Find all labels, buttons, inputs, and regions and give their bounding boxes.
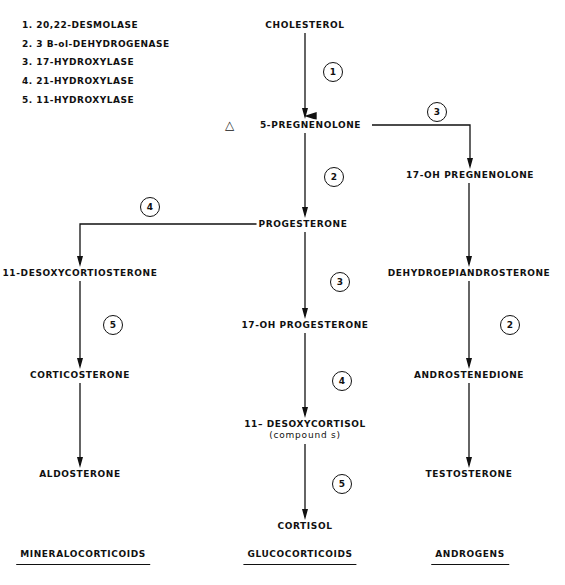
node-17-oh-pregnenolone: 17-OH PREGNENOLONE — [404, 170, 536, 181]
legend-item-4: 4. 21-HYDROXYLASE — [22, 74, 170, 93]
legend-item-2: 2. 3 B-ol-DEHYDROGENASE — [22, 37, 170, 56]
step-badge-3: 3 — [427, 102, 447, 122]
node-aldosterone: ALDOSTERONE — [37, 469, 122, 480]
node-11-desoxycortisol-label: 11– DESOXYCORTISOL — [244, 419, 366, 429]
legend-item-5: 5. 11-HYDROXYLASE — [22, 93, 170, 112]
node-dehydroepiandrosterone: DEHYDROEPIANDROSTERONE — [386, 268, 553, 279]
step-badge-4: 4 — [332, 371, 352, 391]
node-5-pregnenolone: 5-PREGNENOLONE — [258, 120, 363, 131]
step-badge-1: 1 — [323, 62, 343, 82]
step-badge-5: 5 — [103, 315, 123, 335]
node-11-desoxycorticosterone: 11-DESOXYCORTIOSTERONE — [1, 268, 160, 279]
delta-icon: △ — [223, 120, 237, 131]
step-badge-2: 2 — [500, 315, 520, 335]
group-label-glucocorticoids: GLUCOCORTICOIDS — [243, 549, 356, 565]
group-label-mineralocorticoids: MINERALOCORTICOIDS — [16, 549, 150, 565]
node-androstenedione: ANDROSTENEDIONE — [412, 370, 526, 381]
node-11-desoxycortisol-subtitle: (compound s) — [244, 430, 366, 441]
step-badge-2: 2 — [324, 167, 344, 187]
node-11-desoxycortisol: 11– DESOXYCORTISOL (compound s) — [242, 419, 368, 441]
node-cortisol: CORTISOL — [276, 521, 335, 532]
step-badge-4: 4 — [140, 197, 160, 217]
legend-item-3: 3. 17-HYDROXYLASE — [22, 55, 170, 74]
node-17-oh-progesterone: 17-OH PROGESTERONE — [239, 320, 370, 331]
node-testosterone: TESTOSTERONE — [424, 469, 515, 480]
node-corticosterone: CORTICOSTERONE — [28, 370, 132, 381]
group-label-androgens: ANDROGENS — [431, 549, 509, 565]
enzyme-legend: 1. 20,22-DESMOLASE 2. 3 B-ol-DEHYDROGENA… — [22, 18, 170, 111]
node-progesterone: PROGESTERONE — [257, 219, 350, 230]
step-badge-3: 3 — [330, 272, 350, 292]
legend-item-1: 1. 20,22-DESMOLASE — [22, 18, 170, 37]
node-cholesterol: CHOLESTEROL — [263, 20, 346, 31]
step-badge-5: 5 — [332, 474, 352, 494]
